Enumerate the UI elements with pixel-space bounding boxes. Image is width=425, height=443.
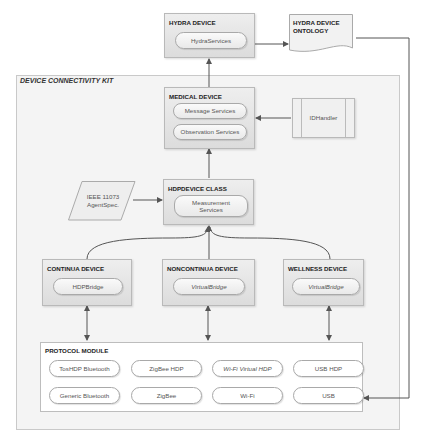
noncontinua-device-box: NONCONTINUA DEVICE VirtualBridge: [162, 259, 255, 306]
kit-title: DEVICE CONNECTIVITY KIT: [20, 77, 113, 84]
ieee-spec-line1: IEEE 11073: [80, 193, 126, 201]
diagram-canvas: DEVICE CONNECTIVITY KIT: [0, 0, 425, 443]
hdpdevice-class-title: HDPDEVICE CLASS: [168, 185, 227, 192]
wellness-device-box: WELLNESS DEVICE VirtualBridge: [283, 259, 364, 306]
idhandler-left-bar: [301, 99, 302, 137]
idhandler-right-bar: [345, 99, 346, 137]
idhandler-label: IDHandler: [310, 114, 338, 122]
protocol-pill: Generic Bluetooth: [49, 387, 120, 404]
noncontinua-device-title: NONCONTINUA DEVICE: [167, 265, 238, 272]
message-services-pill: Message Services: [173, 103, 247, 119]
medical-device-box: MEDICAL DEVICE Message Services Observat…: [164, 87, 255, 149]
protocol-pill: Wi-Fi: [212, 387, 283, 404]
measurement-services-pill: Measurement Services: [174, 195, 248, 217]
protocol-pill: USB: [293, 387, 364, 404]
protocol-module-title: PROTOCOL MODULE: [45, 347, 108, 354]
hdpdevice-class-box: HDPDEVICE CLASS Measurement Services: [163, 179, 254, 225]
continua-device-title: CONTINUA DEVICE: [47, 265, 104, 272]
hydra-device-box: HYDRA DEVICE HydraServices: [164, 13, 255, 58]
hydra-services-pill: HydraServices: [175, 32, 247, 49]
hdpbridge-pill: HDPBridge: [53, 278, 123, 295]
wellness-virtualbridge-pill: VirtualBridge: [292, 278, 360, 295]
protocol-pill: USB HDP: [293, 360, 364, 377]
wellness-device-title: WELLNESS DEVICE: [288, 265, 347, 272]
medical-device-title: MEDICAL DEVICE: [169, 93, 222, 100]
hydra-device-title: HYDRA DEVICE: [169, 19, 216, 26]
ontology-title: HYDRA DEVICE ONTOLOGY: [293, 19, 340, 35]
protocol-pill: ZigBee HDP: [131, 360, 202, 377]
observation-services-pill: Observation Services: [173, 124, 247, 140]
protocol-pill: TosHDP Bluetooth: [49, 360, 120, 377]
ontology-title-line1: HYDRA DEVICE: [293, 19, 340, 27]
noncontinua-virtualbridge-pill: VirtualBridge: [173, 278, 245, 295]
ontology-title-line2: ONTOLOGY: [293, 27, 340, 35]
protocol-pill: ZigBee: [131, 387, 202, 404]
protocol-module-box: PROTOCOL MODULE TosHDP Bluetooth ZigBee …: [40, 342, 363, 412]
ieee-spec-line2: AgentSpec.: [80, 201, 126, 209]
protocol-pill: Wi-Fi Virtual HDP: [212, 360, 283, 377]
measurement-services-line2: Services: [199, 206, 223, 213]
continua-device-box: CONTINUA DEVICE HDPBridge: [42, 259, 132, 306]
ieee-spec-label: IEEE 11073 AgentSpec.: [80, 193, 126, 209]
idhandler-box: IDHandler: [292, 98, 355, 138]
measurement-services-line1: Measurement: [192, 199, 230, 206]
